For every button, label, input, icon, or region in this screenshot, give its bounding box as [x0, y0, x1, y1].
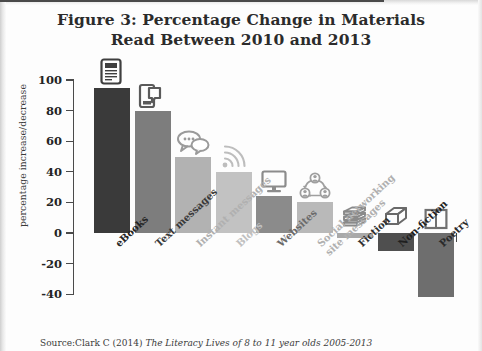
y-tick-label-40: 40 — [18, 165, 62, 179]
zero-baseline — [0, 0, 384, 2]
y-tick-label-text: 20 — [18, 195, 62, 209]
y-tick-label--20: -20 — [18, 257, 62, 271]
y-tick-60 — [66, 141, 74, 142]
speech-bubbles-icon — [176, 129, 210, 159]
y-tick-label-text: -40 — [18, 287, 62, 301]
y-tick-label-0: 0 — [18, 226, 62, 240]
y-tick-label-text: 100 — [18, 73, 62, 87]
y-tick-label-text: 0 — [18, 226, 62, 240]
y-tick-100 — [66, 79, 74, 80]
y-axis-line — [73, 80, 74, 294]
y-tick--40 — [66, 294, 74, 295]
y-tick-label-20: 20 — [18, 195, 62, 209]
y-tick-label-text: 60 — [18, 134, 62, 148]
y-tick-label-text: 80 — [18, 104, 62, 118]
smartphone-icon — [138, 82, 168, 114]
y-tick-80 — [66, 110, 74, 111]
bar-chart-plot: percentage increase/decrease 10080604020… — [0, 0, 482, 351]
y-tick-40 — [66, 171, 74, 172]
y-tick-label-text: 40 — [18, 165, 62, 179]
social-network-icon — [299, 172, 331, 204]
y-tick-label--40: -40 — [18, 287, 62, 301]
y-tick-label-text: -20 — [18, 257, 62, 271]
e-reader-icon — [100, 58, 122, 89]
source-note: Source:Clark C (2014) The Literacy Lives… — [40, 338, 480, 348]
source-title: The Literacy Lives of 8 to 11 year olds … — [145, 338, 372, 348]
y-tick-label-80: 80 — [18, 104, 62, 118]
bar-ebooks — [94, 88, 130, 233]
source-prefix: Source:Clark C (2014) — [40, 338, 145, 348]
y-tick--20 — [66, 263, 74, 264]
rss-wifi-icon — [220, 142, 250, 174]
y-tick-20 — [66, 202, 74, 203]
y-tick-label-60: 60 — [18, 134, 62, 148]
y-tick-label-100: 100 — [18, 73, 62, 87]
y-tick-0 — [66, 232, 74, 233]
figure-page: Figure 3: Percentage Change in Materials… — [0, 0, 482, 351]
